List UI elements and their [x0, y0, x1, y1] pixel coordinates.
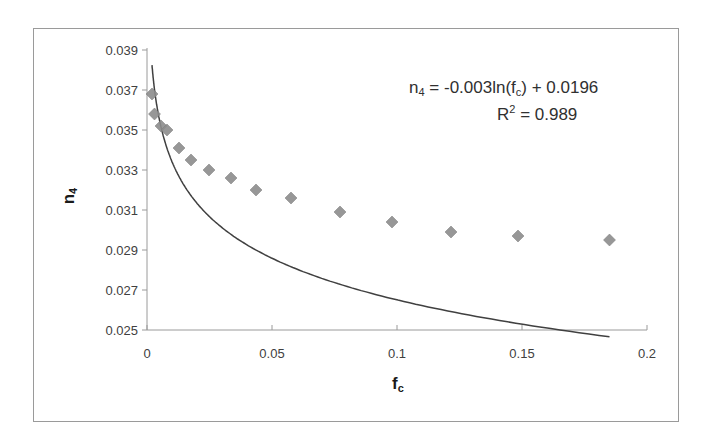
y-tick-label: 0.029 — [105, 243, 138, 258]
y-axis-ticks: 0.0250.0270.0290.0310.0330.0350.0370.039 — [105, 43, 147, 338]
data-point-diamond — [334, 206, 346, 218]
plot-svg: 0.0250.0270.0290.0310.0330.0350.0370.039… — [0, 0, 704, 444]
data-point-diamond — [173, 142, 185, 154]
x-tick-label: 0.15 — [509, 346, 534, 361]
data-point-diamond — [285, 192, 297, 204]
x-tick-label: 0 — [143, 346, 150, 361]
y-tick-label: 0.033 — [105, 163, 138, 178]
trendline-equation: n4 = -0.003ln(fc) + 0.0196 — [409, 78, 598, 98]
y-tick-label: 0.037 — [105, 83, 138, 98]
data-point-diamond — [512, 230, 524, 242]
data-point-diamond — [386, 216, 398, 228]
y-tick-label: 0.025 — [105, 323, 138, 338]
x-tick-label: 0.05 — [259, 346, 284, 361]
y-axis-title: n4 — [59, 187, 79, 204]
x-tick-label: 0.1 — [388, 346, 406, 361]
data-point-diamond — [250, 184, 262, 196]
r-squared-label: R2 = 0.989 — [497, 103, 577, 124]
data-point-diamond — [185, 154, 197, 166]
data-point-diamond — [604, 234, 616, 246]
data-point-diamond — [445, 226, 457, 238]
x-tick-label: 0.2 — [638, 346, 656, 361]
data-point-diamond — [225, 172, 237, 184]
x-axis-title: fc — [392, 374, 404, 394]
y-tick-label: 0.039 — [105, 43, 138, 58]
y-tick-label: 0.035 — [105, 123, 138, 138]
y-tick-label: 0.027 — [105, 283, 138, 298]
y-tick-label: 0.031 — [105, 203, 138, 218]
data-point-diamond — [203, 164, 215, 176]
